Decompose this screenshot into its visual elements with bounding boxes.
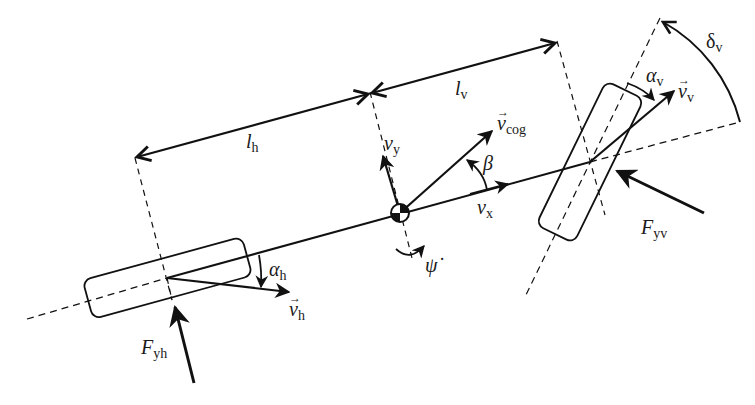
label-v-y: vy (384, 132, 400, 157)
label-beta: β (482, 152, 493, 175)
vehicle-single-track-diagram: lh lv vcog → vy vx β ψ̇ δv αv vv → αh vh… (0, 0, 755, 405)
label-psi-dot: ψ̇ (425, 254, 443, 277)
label-delta-v: δv (706, 30, 722, 55)
longitudinal-axis (167, 162, 590, 278)
label-alpha-v: αv (646, 64, 664, 89)
label-v-cog-arrow: → (497, 105, 509, 119)
rear-velocity-vector (167, 278, 289, 292)
dimension-l-v (372, 43, 555, 93)
rear-slip-angle-arc (259, 255, 261, 287)
label-alpha-h: αh (269, 258, 287, 283)
front-lateral-force (617, 171, 704, 213)
label-l-v: lv (455, 77, 468, 102)
label-v-h-arrow: → (289, 291, 301, 305)
front-velocity-vector (590, 91, 674, 162)
label-l-h: lh (246, 130, 259, 155)
label-F-yv: Fyv (640, 216, 667, 241)
axis-dashed-rear-extension (27, 278, 167, 319)
front-wheel-plane (525, 18, 660, 297)
label-v-v-arrow: → (678, 73, 690, 87)
steering-angle-arc (663, 22, 740, 122)
dim-ext-rear (135, 158, 172, 300)
cog-marker (391, 204, 409, 222)
label-v-x: vx (477, 196, 493, 221)
dim-ext-cog (370, 92, 413, 262)
vx-arrow-marker (470, 184, 508, 194)
rear-lateral-force (175, 307, 194, 383)
label-F-yh: Fyh (140, 336, 167, 361)
yaw-rate-arc (396, 246, 424, 255)
dim-ext-front (557, 41, 605, 215)
